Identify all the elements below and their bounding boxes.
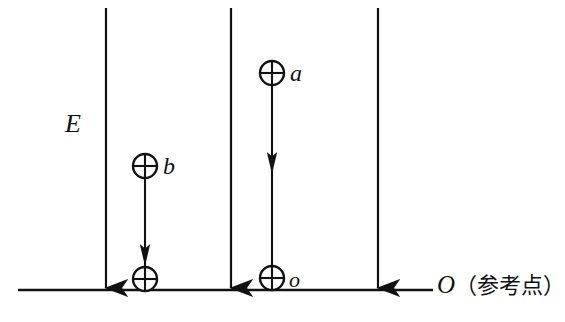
particle-o-label: o (289, 269, 300, 291)
particle-o (260, 266, 284, 290)
particle-a-label: a (290, 61, 302, 85)
origin-label: O（参考点） (437, 272, 565, 297)
origin-note: （参考点） (455, 273, 565, 298)
physics-diagram-figure: E a b o O（参考点） (0, 0, 565, 322)
particle-a (260, 61, 284, 85)
particle-b-label: b (163, 154, 175, 178)
origin-letter: O (437, 271, 455, 298)
particle-b (133, 154, 157, 178)
trajectory-a (267, 85, 277, 266)
field-label-E: E (65, 111, 81, 137)
field-lines-group (106, 8, 378, 288)
trajectory-b (140, 178, 150, 266)
particle-landing (133, 267, 157, 291)
